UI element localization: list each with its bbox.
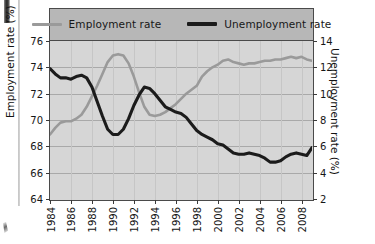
y-axis-right-tick [313,199,317,200]
scan-artifact-mark [3,222,8,233]
legend-label-unemployment: Unemployment rate [224,18,331,30]
x-axis-tick [260,200,261,204]
legend-item-unemployment-rate[interactable]: Unemployment rate [187,18,331,30]
page-canvas: Employment rate (%) Unemployment rate (%… [0,0,375,244]
chart-figure: Employment rate Unemployment rate 646668… [49,8,314,201]
y-axis-right-tick-label: 14 [320,36,333,47]
legend-label-employment: Employment rate [69,18,162,30]
y-axis-left-tick-label: 68 [30,141,43,152]
legend-item-employment-rate[interactable]: Employment rate [32,18,162,30]
y-axis-left-tick-label: 70 [30,115,43,126]
x-axis-tick [218,200,219,204]
y-axis-left-tick-label: 74 [30,62,43,73]
y-axis-left-tick-label: 66 [30,167,43,178]
x-axis-tick [50,200,51,204]
chart-legend: Employment rate Unemployment rate [49,8,314,40]
x-axis-tick-label: 1988 [87,207,98,232]
x-axis-tick-label: 1992 [129,207,140,232]
y-axis-right-tick-label: 4 [320,167,326,178]
plot-area: 646668707274762468101214 [49,40,314,201]
y-axis-right-tick-label: 8 [320,115,326,126]
x-axis-tick-label: 2004 [255,207,266,232]
y-axis-right-tick-label: 6 [320,141,326,152]
x-axis-tick [176,200,177,204]
x-axis-tick [239,200,240,204]
y-axis-left-tick-label: 76 [30,36,43,47]
y-axis-right-tick [313,120,317,121]
y-axis-right-tick-label: 12 [320,62,333,73]
x-axis-tick [71,200,72,204]
line-employment-rate [50,54,312,134]
x-axis-tick-label: 2000 [213,207,224,232]
x-axis-tick [155,200,156,204]
y-axis-right-tick [313,41,317,42]
x-axis-tick-label: 1990 [108,207,119,232]
y-axis-right-tick-label: 10 [320,88,333,99]
x-axis-tick [113,200,114,204]
y-axis-right-tick [313,146,317,147]
legend-swatch-employment-icon [32,23,62,26]
y-axis-left-tick-label: 72 [30,88,43,99]
x-axis-tick-label: 2008 [297,207,308,232]
x-axis-tick-label: 1984 [45,207,56,232]
y-axis-right-tick-label: 2 [320,194,326,205]
x-axis-tick [281,200,282,204]
y-axis-left-tick-label: 64 [30,194,43,205]
scan-artifact-rule [18,0,20,206]
x-axis-tick [197,200,198,204]
y-axis-left-title: Employment rate (%) [4,5,16,118]
x-axis-tick-label: 1986 [66,207,77,232]
legend-swatch-unemployment-icon [187,22,217,26]
x-axis-tick [134,200,135,204]
x-axis-tick [92,200,93,204]
line-unemployment-rate [50,69,312,162]
series-lines [50,41,312,199]
x-axis-tick-label: 2006 [276,207,287,232]
x-axis-tick-label: 2002 [234,207,245,232]
x-axis-tick-label: 1996 [171,207,182,232]
x-axis-tick [302,200,303,204]
y-axis-right-tick [313,67,317,68]
y-axis-right-tick [313,94,317,95]
y-axis-right-tick [313,173,317,174]
x-axis-tick-label: 1998 [192,207,203,232]
x-axis-tick-label: 1994 [150,207,161,232]
